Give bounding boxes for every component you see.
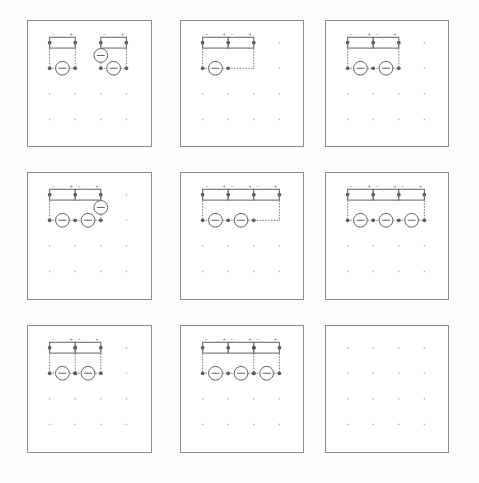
grid-dot [424, 271, 426, 273]
resistor [228, 37, 254, 48]
resistor [75, 189, 101, 200]
resistor [348, 189, 374, 200]
resistor-polarity-plus: + [274, 183, 277, 189]
grid-dot [279, 119, 281, 121]
grid-dot [372, 372, 374, 374]
junction-node [226, 218, 230, 222]
circuit-panel-1-1[interactable]: −+−+ [27, 20, 152, 147]
resistor-polarity-minus: − [52, 336, 55, 342]
resistor-polarity-minus: − [78, 183, 81, 189]
grid-dot [202, 271, 204, 273]
circuit-canvas: −+−+ [181, 21, 303, 146]
circuit-panel-2-1[interactable]: −+−+ [27, 172, 152, 300]
junction-node [226, 371, 230, 375]
grid-dot [398, 424, 400, 426]
grid-dot [126, 271, 128, 273]
grid-dot [424, 398, 426, 400]
resistor [50, 37, 76, 48]
grid-dot [100, 119, 102, 121]
grid-dot [126, 93, 128, 95]
grid-dot [227, 119, 229, 121]
grid-dot [372, 271, 374, 273]
resistor-polarity-minus: − [52, 31, 55, 37]
junction-node [73, 346, 77, 350]
grid-dot [227, 93, 229, 95]
grid-dot [424, 42, 426, 44]
grid-dot [398, 372, 400, 374]
grid-dot [253, 245, 255, 247]
grid-dot [279, 93, 281, 95]
grid-dot [100, 245, 102, 247]
grid-dot [398, 119, 400, 121]
junction-node [226, 346, 230, 350]
grid-dot [49, 424, 51, 426]
resistor-polarity-plus: + [70, 336, 73, 342]
grid-dot [49, 398, 51, 400]
resistor-polarity-minus: − [376, 31, 379, 37]
resistor-polarity-minus: − [205, 31, 208, 37]
circuit-canvas: −+−+ [326, 21, 448, 146]
grid-dot [279, 424, 281, 426]
resistor-polarity-minus: − [256, 336, 259, 342]
grid-dot [253, 93, 255, 95]
junction-node [252, 371, 256, 375]
resistor-polarity-minus: − [231, 336, 234, 342]
grid-dot [347, 271, 349, 273]
grid-dot [100, 398, 102, 400]
resistor-polarity-minus: − [52, 183, 55, 189]
junction-node [371, 41, 375, 45]
resistor [373, 189, 399, 200]
resistor-polarity-minus: − [376, 183, 379, 189]
junction-node [371, 193, 375, 197]
grid-dot [126, 245, 128, 247]
grid-dot [279, 271, 281, 273]
grid-dot [74, 119, 76, 121]
grid-dot [279, 245, 281, 247]
grid-dot [74, 245, 76, 247]
resistor [373, 37, 399, 48]
resistor-polarity-plus: + [248, 183, 251, 189]
circuit-panel-3-2[interactable]: −+−+−+ [180, 325, 304, 453]
resistor [50, 189, 76, 200]
circuit-panel-1-3[interactable]: −+−+ [325, 20, 449, 147]
grid-dot [279, 67, 281, 69]
resistor [348, 37, 374, 48]
grid-dot [126, 424, 128, 426]
resistor-polarity-minus: − [350, 31, 353, 37]
grid-dot [279, 42, 281, 44]
grid-dot [253, 119, 255, 121]
resistor-polarity-plus: + [368, 183, 371, 189]
junction-node [226, 41, 230, 45]
circuit-panel-2-2[interactable]: −+−+−+ [180, 172, 304, 300]
grid-dot [398, 398, 400, 400]
grid-dot [424, 119, 426, 121]
grid-dot [424, 372, 426, 374]
grid-dot [202, 245, 204, 247]
resistor-polarity-plus: + [248, 336, 251, 342]
circuit-canvas: −+−+−+ [181, 173, 303, 299]
grid-dot [398, 93, 400, 95]
resistor [75, 342, 101, 353]
grid-dot [100, 93, 102, 95]
circuit-panel-3-3[interactable] [325, 325, 449, 453]
circuit-panel-2-3[interactable]: −+−+−+ [325, 172, 449, 300]
grid-dot [424, 347, 426, 349]
grid-dot [347, 424, 349, 426]
grid-dot [74, 271, 76, 273]
grid-dot [372, 398, 374, 400]
figure-sheet: −+−+−+−+−+−+−+−+−+−+−+−+−+−+−+−+−+−+−+ [0, 0, 479, 483]
resistor-polarity-plus: + [223, 336, 226, 342]
resistor-polarity-plus: + [393, 31, 396, 37]
grid-dot [49, 245, 51, 247]
junction-node [371, 218, 375, 222]
circuit-canvas: −+−+−+ [326, 173, 448, 299]
grid-dot [424, 67, 426, 69]
circuit-panel-3-1[interactable]: −+−+ [27, 325, 152, 453]
grid-dot [372, 93, 374, 95]
grid-dot [347, 347, 349, 349]
circuit-canvas [326, 326, 448, 452]
circuit-panel-1-2[interactable]: −+−+ [180, 20, 304, 147]
resistor-polarity-plus: + [419, 183, 422, 189]
resistor [254, 342, 280, 353]
junction-node [73, 218, 77, 222]
